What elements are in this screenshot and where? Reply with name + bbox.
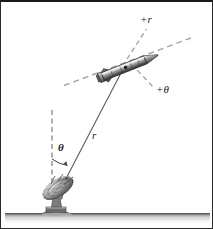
radial-distance-label: r — [92, 130, 96, 141]
polar-coordinates-figure: +r +θ r θ — [0, 0, 213, 229]
plus-theta-label: +θ — [156, 84, 169, 95]
radial-distance-line — [58, 71, 122, 194]
satellite-dish — [39, 172, 77, 216]
rocket-axis-dashed-line — [64, 38, 191, 86]
plus-r-axis-ray — [127, 29, 147, 59]
figure-canvas — [1, 2, 213, 229]
plus-r-label: +r — [140, 14, 152, 25]
angle-arc — [52, 159, 68, 166]
angle-theta-label: θ — [58, 142, 64, 153]
ground-line — [5, 213, 210, 225]
